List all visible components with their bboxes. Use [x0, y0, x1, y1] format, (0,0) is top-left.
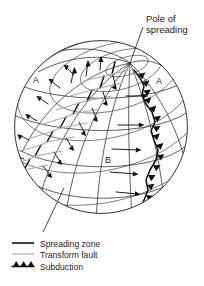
plate-label-a-right: A	[156, 76, 162, 86]
legend-item-subduction: Subduction	[12, 261, 83, 271]
plate-label-b: B	[105, 155, 111, 165]
legend-label-transform-fault: Transform fault	[40, 250, 98, 260]
plate-label-a-left: A	[33, 75, 39, 85]
legend-label-spreading-zone: Spreading zone	[40, 239, 100, 249]
legend-item-spreading-zone: Spreading zone	[12, 239, 100, 249]
legend-label-subduction: Subduction	[40, 262, 83, 272]
subduction-tooth	[142, 204, 149, 211]
pole-annotation-line1: Pole of	[146, 13, 176, 24]
legend-item-transform-fault: Transform fault	[12, 250, 98, 260]
plate-tectonics-diagram: A A B Pole of spreading Spreading zone T…	[0, 0, 204, 286]
subduction-swatch-icon	[12, 261, 34, 266]
legend: Spreading zone Transform fault Subductio…	[12, 239, 100, 272]
pole-annotation-line2: spreading	[146, 24, 188, 35]
